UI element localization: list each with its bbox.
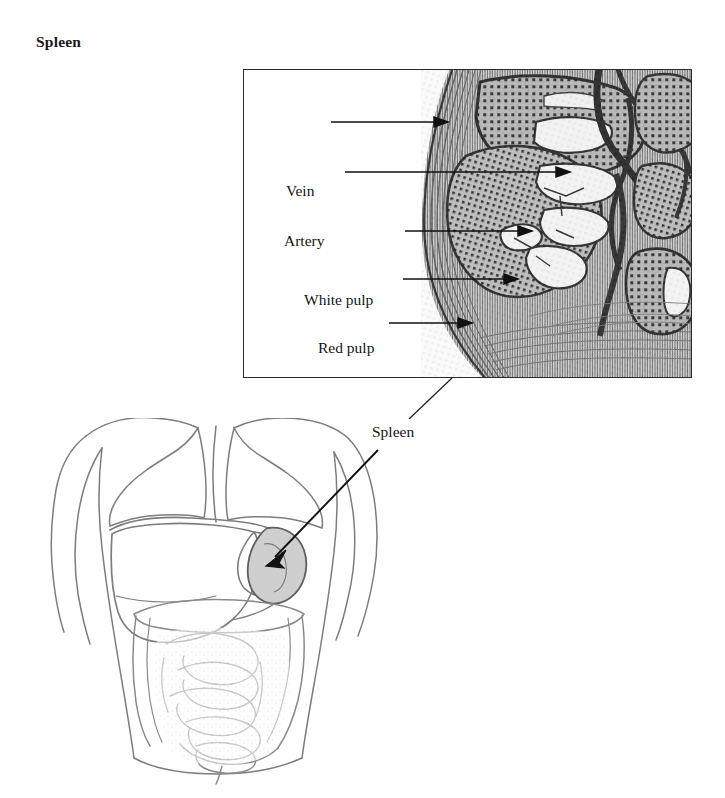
- spleen-callout-label: Spleen: [372, 423, 414, 441]
- flank-right-outline: [302, 452, 337, 758]
- lung-right-outline: [226, 428, 322, 528]
- spleen-organ: [248, 528, 307, 604]
- liver-outline: [111, 523, 259, 642]
- arm-right-outline: [348, 438, 377, 636]
- rectum-line: [216, 766, 222, 784]
- inset-label-red-pulp: Red pulp: [318, 339, 374, 357]
- lung-left-outline: [110, 428, 206, 526]
- spleen-histology-panel: Vein Artery White pulp Red pulp Capsule: [243, 69, 692, 378]
- inset-label-vein: Vein: [286, 182, 314, 200]
- torso-anatomy-illustration: [46, 418, 386, 793]
- inset-connector-line: [409, 378, 452, 419]
- shoulder-right-outline: [234, 418, 348, 438]
- figure-title: Spleen: [36, 33, 81, 51]
- shoulder-left-outline: [86, 418, 198, 436]
- arm-left-inner-outline: [75, 448, 102, 644]
- arm-left-outline: [51, 436, 86, 632]
- inset-label-artery: Artery: [284, 232, 324, 250]
- mediastinum-line: [213, 426, 216, 522]
- gut-texture-fill: [155, 627, 290, 765]
- torso-anatomy-image: [46, 418, 386, 793]
- inset-label-white-pulp: White pulp: [304, 291, 373, 309]
- spleen-histology-image: [244, 70, 692, 378]
